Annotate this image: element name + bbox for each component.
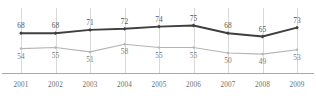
lower-series-value-label: 50 <box>224 57 231 64</box>
data-point-marker <box>89 50 92 53</box>
upper-series-value-label: 68 <box>224 22 231 29</box>
data-point-marker <box>295 26 299 30</box>
x-axis-tick-label: 2003 <box>82 82 97 89</box>
data-point-marker <box>227 52 230 55</box>
x-axis-tick-label: 2006 <box>186 82 201 89</box>
data-point-marker <box>226 31 230 35</box>
upper-series-value-label: 75 <box>190 15 197 22</box>
data-point-marker <box>20 47 23 50</box>
x-axis-tick-label: 2005 <box>151 82 166 89</box>
x-axis-tick-label: 2009 <box>289 82 304 89</box>
upper-series-value-label: 65 <box>259 26 266 33</box>
line-chart: 200120022003200420052006200720082009 686… <box>0 0 316 98</box>
x-axis-tick-label: 2008 <box>255 82 270 89</box>
upper-series-value-label: 68 <box>17 22 24 29</box>
x-axis-tick-label: 2004 <box>117 82 132 89</box>
lower-series-value-label: 49 <box>259 58 266 65</box>
data-point-marker <box>88 28 92 32</box>
lower-series-value-label: 55 <box>52 52 59 59</box>
upper-series-value-label: 74 <box>155 16 162 23</box>
lower-series-value-label: 51 <box>86 56 93 63</box>
x-axis-tick-label: 2001 <box>13 82 28 89</box>
data-point-marker <box>19 31 23 35</box>
data-point-marker <box>296 48 299 51</box>
lower-series-value-label: 54 <box>17 53 24 60</box>
upper-series-value-label: 71 <box>86 19 93 26</box>
upper-series-value-label: 73 <box>293 17 300 24</box>
upper-series-value-label: 72 <box>121 18 128 25</box>
x-axis-tick-label: 2002 <box>48 82 63 89</box>
lower-series-value-label: 55 <box>155 52 162 59</box>
data-point-marker <box>158 46 161 49</box>
upper-series-value-label: 68 <box>52 22 59 29</box>
data-point-marker <box>157 25 161 29</box>
lower-series-value-label: 55 <box>190 52 197 59</box>
lower-series-value-label: 53 <box>293 54 300 61</box>
x-axis-tick-label: 2007 <box>220 82 235 89</box>
lower-series-value-label: 58 <box>121 48 128 55</box>
